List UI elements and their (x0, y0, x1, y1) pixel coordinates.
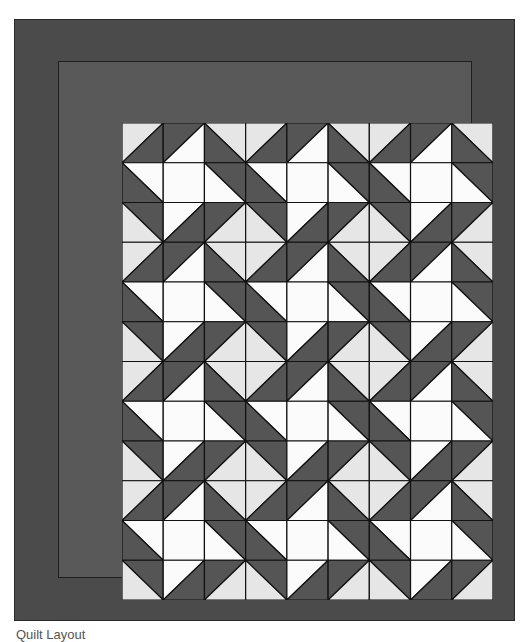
plain-square (411, 282, 452, 322)
plain-square (287, 282, 328, 322)
plain-square (163, 401, 204, 441)
plain-square (163, 163, 204, 203)
quilt-block-grid (122, 123, 493, 600)
quilt-caption: Quilt Layout (16, 628, 85, 641)
plain-square (411, 163, 452, 203)
quilt-outer-border (14, 19, 515, 621)
plain-square (411, 401, 452, 441)
plain-square (287, 401, 328, 441)
plain-square (163, 282, 204, 322)
plain-square (287, 163, 328, 203)
plain-square (411, 521, 452, 561)
plain-square (163, 521, 204, 561)
plain-square (287, 521, 328, 561)
quilt-inner-border (58, 61, 472, 578)
